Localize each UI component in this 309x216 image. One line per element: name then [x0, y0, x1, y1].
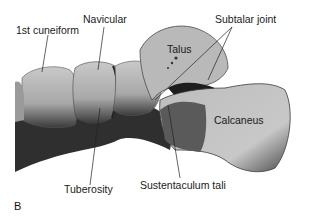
- label-talus: Talus: [167, 44, 192, 55]
- foot-bones-figure: 1st cuneiform Navicular Subtalar joint T…: [0, 0, 309, 216]
- first-cuneiform-bone: [22, 67, 78, 128]
- navicular-bone: [73, 62, 118, 124]
- label-calcaneus: Calcaneus: [214, 115, 264, 126]
- panel-letter: B: [14, 200, 21, 212]
- label-navicular: Navicular: [83, 14, 127, 25]
- label-subtalar-joint: Subtalar joint: [215, 14, 276, 25]
- label-1st-cuneiform: 1st cuneiform: [16, 25, 79, 36]
- label-sustentaculum-tali: Sustentaculum tali: [140, 180, 226, 191]
- foramen: [174, 56, 177, 59]
- foramen: [167, 67, 169, 69]
- label-tuberosity: Tuberosity: [64, 184, 113, 195]
- foramen: [171, 62, 173, 64]
